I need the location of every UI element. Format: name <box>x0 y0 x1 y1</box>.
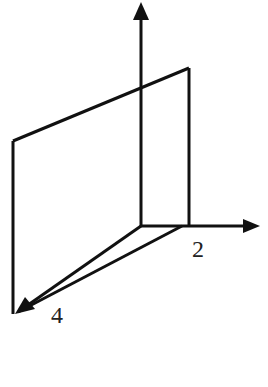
plane <box>13 68 189 314</box>
y-axis-arrow-icon <box>243 219 260 233</box>
plane-bottom-edge <box>18 226 182 312</box>
y-intercept-label: 2 <box>192 236 204 262</box>
x-intercept-label: 4 <box>51 302 63 328</box>
x-axis-arrow-icon <box>15 297 35 314</box>
x-axis <box>28 226 141 305</box>
axes <box>28 16 246 305</box>
diagram-canvas: 2 4 <box>0 0 268 387</box>
z-axis-arrow-icon <box>133 2 149 20</box>
plane-top-edge <box>13 68 189 141</box>
